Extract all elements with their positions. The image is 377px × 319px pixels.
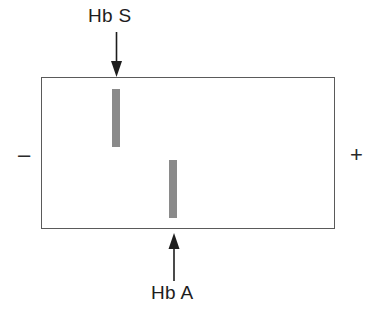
electrophoresis-figure: Hb S Hb A – +: [0, 0, 377, 319]
label-hb-s: Hb S: [88, 6, 131, 26]
label-hb-a: Hb A: [151, 283, 193, 303]
gel-plate: [41, 77, 335, 229]
arrow-up-hb-a: [169, 233, 180, 281]
arrow-down-hb-s: [111, 32, 122, 77]
anode-plus-sign: +: [350, 144, 363, 166]
cathode-minus-sign: –: [18, 144, 30, 166]
band-hb-s: [112, 89, 120, 147]
band-hb-a: [169, 160, 177, 218]
